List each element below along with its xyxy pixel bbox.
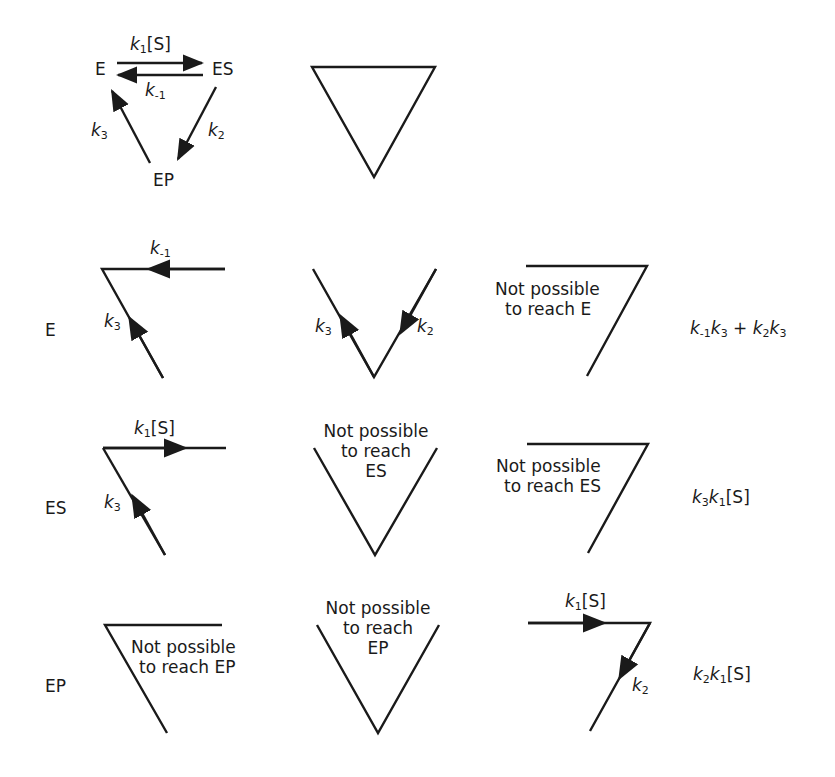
diagram-lines [0, 0, 835, 777]
node-es: ES [212, 59, 234, 79]
rate-k-1: k-1 [145, 80, 166, 106]
edge-label: k3 [104, 311, 121, 337]
triangle-template [312, 67, 435, 177]
edge-label: k2 [417, 316, 434, 342]
edge-label: k2 [632, 675, 649, 701]
row-label-e: E [45, 320, 56, 340]
rate-k3: k3 [91, 120, 108, 146]
not-possible-note: Not possibleto reach E [495, 279, 600, 319]
node-ep: EP [153, 170, 174, 190]
row-label-es: ES [45, 498, 67, 518]
rate-k2: k2 [208, 120, 225, 146]
node-e: E [95, 59, 106, 79]
edge-label: k3 [104, 492, 121, 518]
term-result: k-1k3 + k2k3 [690, 318, 786, 344]
term-result: k3k1[S] [692, 487, 750, 513]
term-result: k2k1[S] [693, 664, 751, 690]
not-possible-note: Not possibleto reachES [312, 421, 440, 481]
edge-label: k3 [315, 316, 332, 342]
not-possible-note: Not possibleto reach ES [496, 456, 601, 496]
edge-label: k-1 [150, 238, 171, 264]
row-label-ep: EP [45, 676, 66, 696]
edge-label: k1[S] [134, 418, 175, 444]
edge-label: k1[S] [565, 591, 606, 617]
not-possible-note: Not possibleto reach EP [131, 637, 236, 677]
not-possible-note: Not possibleto reachEP [314, 598, 442, 658]
rate-k1s: k1[S] [130, 34, 171, 60]
